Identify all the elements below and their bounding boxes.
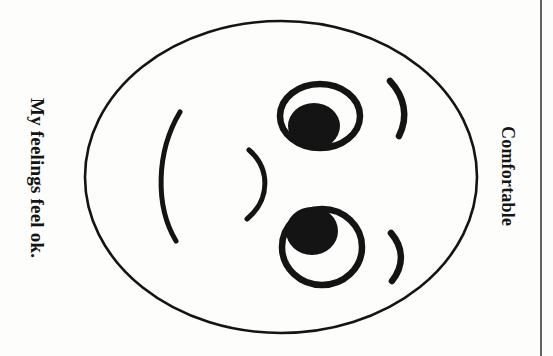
eye-lower-pupil (286, 207, 338, 255)
caption-my-feelings-feel-ok: My feelings feel ok. (26, 98, 48, 258)
eye-upper-pupil (288, 103, 340, 149)
face-drawing (0, 0, 553, 356)
mouth-curve (161, 112, 180, 241)
eyebrow-lower-icon (391, 233, 401, 281)
face-outline (85, 21, 477, 333)
eyebrow-upper-icon (390, 81, 404, 136)
nose-curve (247, 150, 265, 219)
caption-comfortable: Comfortable (497, 126, 518, 226)
eye-lower (282, 207, 362, 285)
eye-upper (280, 84, 360, 149)
worksheet-page: My feelings feel ok. Comfortable (0, 0, 553, 356)
